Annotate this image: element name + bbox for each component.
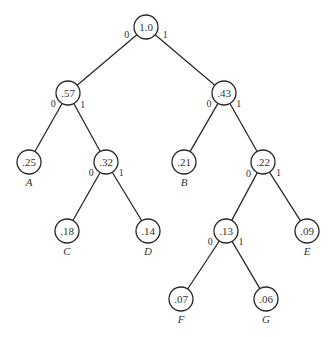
leaf-node-a: .25A (17, 150, 41, 188)
nodes-layer: 1.0.57.43.25A.32.21B.22.18C.14D.13.09E.0… (17, 15, 319, 325)
leaf-symbol-label: C (63, 245, 71, 257)
edge-label: 0 (208, 236, 213, 247)
edge-n2-n5 (190, 103, 218, 151)
leaf-symbol-label: A (25, 176, 33, 188)
edge-label: 1 (276, 167, 281, 178)
edge-n6-n10 (269, 172, 300, 221)
node-probability: .22 (256, 156, 270, 168)
internal-node: 1.0 (134, 15, 158, 39)
node-probability: .13 (219, 225, 233, 237)
node-probability: .14 (141, 225, 155, 237)
leaf-symbol-label: G (262, 313, 270, 325)
node-probability: .32 (99, 156, 113, 168)
edge-label: 1 (236, 98, 241, 109)
edge-label: 0 (246, 168, 251, 179)
edge-n2-n6 (230, 103, 257, 151)
internal-node: .32 (94, 150, 118, 174)
edge-n9-n12 (232, 241, 260, 288)
edge-n9-n11 (188, 241, 220, 289)
edge-n6-n9 (232, 173, 258, 221)
edge-n1-n3 (35, 103, 62, 151)
edge-label: 1 (119, 167, 124, 178)
leaf-node-d: .14D (136, 219, 160, 257)
leaf-node-f: .07F (169, 287, 193, 325)
edge-n4-n7 (73, 172, 100, 220)
edge-label: 0 (206, 98, 211, 109)
node-probability: .18 (60, 225, 74, 237)
node-probability: .57 (61, 87, 75, 99)
edge-label: 0 (89, 167, 94, 178)
leaf-node-g: .06G (254, 287, 278, 325)
edge-label: 1 (163, 29, 168, 40)
leaf-node-c: .18C (55, 219, 79, 257)
internal-node: .57 (56, 81, 80, 105)
leaf-symbol-label: E (303, 245, 311, 257)
leaf-node-e: .09E (295, 219, 319, 257)
edge-labels-layer: 010101010101 (51, 29, 281, 247)
edge-n0-n1 (77, 35, 137, 85)
leaf-symbol-label: D (143, 245, 152, 257)
edge-n1-n4 (74, 104, 100, 152)
internal-node: .22 (251, 150, 275, 174)
node-probability: .07 (174, 293, 188, 305)
node-probability: .09 (300, 225, 314, 237)
node-probability: .21 (177, 156, 191, 168)
edge-label: 0 (51, 98, 56, 109)
node-probability: .43 (217, 87, 231, 99)
leaf-node-b: .21B (172, 150, 196, 188)
node-probability: 1.0 (139, 21, 153, 33)
internal-node: .43 (212, 81, 236, 105)
internal-node: .13 (214, 219, 238, 243)
edge-label: 0 (124, 29, 129, 40)
node-probability: .25 (22, 156, 36, 168)
edge-n4-n8 (112, 172, 142, 220)
edge-label: 1 (80, 99, 85, 110)
huffman-tree-diagram: 010101010101 1.0.57.43.25A.32.21B.22.18C… (0, 0, 335, 337)
edge-n0-n2 (155, 35, 215, 85)
leaf-symbol-label: B (181, 176, 188, 188)
edge-label: 1 (239, 236, 244, 247)
node-probability: .06 (259, 293, 273, 305)
leaf-symbol-label: F (177, 313, 185, 325)
